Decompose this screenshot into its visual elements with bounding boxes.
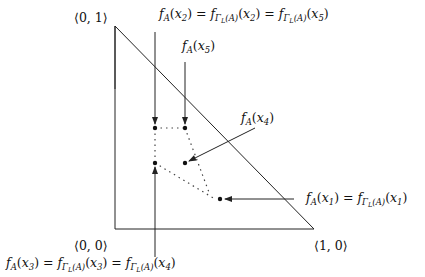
label-x2: fA(x2) = fΓL(A)(x2) = fΓL(A)(x5) <box>159 8 329 25</box>
label-x3: fA(x3) = fΓL(A)(x3) = fΓL(A)(x4) <box>6 257 176 274</box>
label-x1: fA(x1) = fΓL(A)(x1) <box>306 192 407 209</box>
point-x4 <box>183 161 187 165</box>
point-x5 <box>183 126 187 130</box>
point-x3 <box>153 161 157 165</box>
points <box>153 126 222 201</box>
corner-label-bottom-left: ⟨0, 0⟩ <box>74 240 108 253</box>
label-x4: fA(x4) <box>241 112 274 127</box>
corner-label-top: ⟨0, 1⟩ <box>74 12 108 25</box>
point-x2 <box>153 126 157 130</box>
arrow-x4 <box>189 128 255 161</box>
arrows <box>155 32 294 257</box>
point-x1 <box>218 197 222 201</box>
label-x5: fA(x5) <box>182 40 215 55</box>
corner-label-bottom-right: ⟨1, 0⟩ <box>314 240 348 253</box>
